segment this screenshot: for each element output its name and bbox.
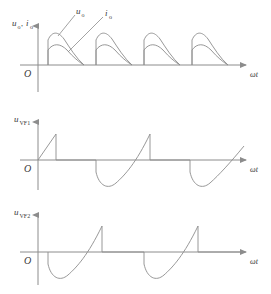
y-label-uo-base: u (12, 18, 17, 28)
io-callout-base: i (105, 8, 108, 18)
y-label-panel2: u VF1 (14, 114, 30, 126)
panel-uvf2 (20, 215, 246, 285)
panel-uvf1 (20, 122, 246, 190)
x-label-panel2: ωt (250, 165, 259, 174)
y-label-io-base: i (26, 18, 29, 28)
y-label-panel1: u o , i o (12, 18, 33, 30)
y-label-uvf2-base: u (14, 207, 19, 217)
origin-label-panel1: O (24, 68, 31, 79)
waveform-svg: u o , i o u o i o O ωt u VF1 O ωt u V (0, 0, 271, 294)
uvf1-dip-ramp-2 (150, 146, 244, 186)
io-pulse-4 (192, 45, 228, 65)
y-label-uvf1-base: u (14, 114, 19, 124)
origin-label-panel2: O (24, 163, 31, 174)
uvf1-ramp-1 (38, 134, 56, 160)
y-label-uvf1-sub: VF1 (20, 120, 31, 126)
y-label-panel3: u VF2 (14, 207, 30, 219)
panel-uo-io (20, 15, 246, 92)
y-label-uvf2-sub: VF2 (20, 213, 31, 219)
waveform-figure: u o , i o u o i o O ωt u VF1 O ωt u V (0, 0, 271, 294)
io-pulse-3 (144, 45, 180, 65)
uo-callout-base: u (76, 6, 81, 16)
io-callout: i o (105, 8, 112, 20)
io-callout-sub: o (109, 14, 112, 20)
x-label-panel3: ωt (250, 257, 259, 266)
y-label-comma: , (21, 19, 23, 28)
origin-label-panel3: O (24, 255, 31, 266)
y-label-io-sub: o (30, 24, 33, 30)
io-leader-line (68, 17, 103, 52)
uo-leader-line (58, 15, 75, 36)
x-label-panel1: ωt (250, 70, 259, 79)
io-pulse-1 (48, 45, 84, 65)
uo-callout-sub: o (82, 12, 85, 18)
io-pulse-2 (96, 45, 132, 65)
uo-callout: u o (76, 6, 85, 18)
